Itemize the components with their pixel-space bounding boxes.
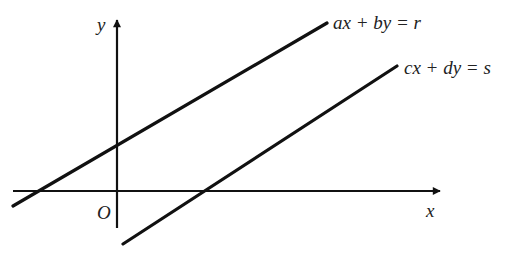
origin-label: O (97, 202, 111, 223)
line-ax-by-r (13, 23, 327, 206)
x-axis-label: x (425, 200, 435, 221)
equation-label-1: ax + by = r (333, 12, 422, 33)
equation-label-2: cx + dy = s (404, 57, 491, 78)
y-axis-label: y (95, 14, 106, 35)
linear-system-diagram: y O x ax + by = r cx + dy = s (0, 0, 519, 265)
line-cx-dy-s (123, 66, 397, 244)
